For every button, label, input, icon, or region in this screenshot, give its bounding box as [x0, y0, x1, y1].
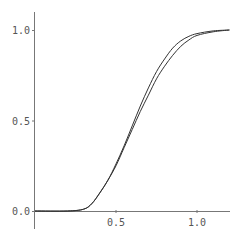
y-tick-label: 0.0: [12, 206, 30, 217]
series-line-1: [35, 30, 229, 211]
x-tick-label: 1.0: [188, 217, 206, 228]
axes: [34, 12, 230, 229]
chart: 0.00.51.0 0.51.0: [0, 0, 246, 239]
series-line-2: [35, 30, 229, 211]
x-tick-label: 0.5: [107, 217, 125, 228]
y-tick-label: 0.5: [12, 116, 30, 127]
y-tick-label: 1.0: [12, 25, 30, 36]
